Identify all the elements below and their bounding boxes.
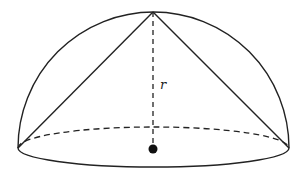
- center-point: [149, 145, 158, 154]
- radius-label: r: [160, 77, 167, 92]
- cone-left-slant-edge: [18, 12, 153, 148]
- hemisphere-cone-diagram: r: [0, 0, 305, 175]
